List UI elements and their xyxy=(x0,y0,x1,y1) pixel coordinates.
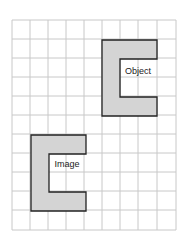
translation-diagram: Object Image xyxy=(0,0,185,245)
image-label: Image xyxy=(54,159,79,169)
object-label: Object xyxy=(125,66,152,76)
image-shape xyxy=(31,135,86,211)
object-shape xyxy=(102,40,157,116)
